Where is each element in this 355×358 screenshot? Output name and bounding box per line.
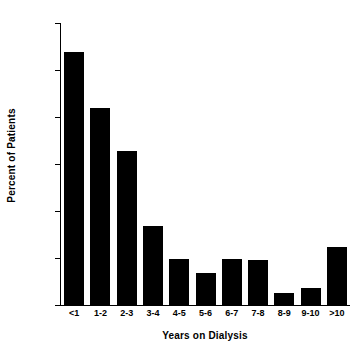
bar [143, 226, 163, 305]
plot-area: 051015202530 [60, 23, 350, 305]
bar [90, 108, 110, 305]
x-axis-tick-label: >10 [317, 309, 355, 318]
x-axis-line [60, 305, 350, 306]
bar [248, 260, 268, 305]
bar [117, 151, 137, 305]
bar [222, 259, 242, 305]
bar [274, 293, 294, 305]
bar [301, 288, 321, 305]
y-axis-tick [55, 305, 61, 306]
bar [327, 247, 347, 305]
bar [196, 273, 216, 305]
x-axis-tick-labels: <11-22-33-44-55-66-77-88-99-10>10 [60, 309, 350, 323]
y-axis-title-text: Percent of Patients [6, 108, 17, 202]
x-axis-title: Years on Dialysis [60, 330, 350, 341]
bar [169, 259, 189, 305]
y-axis-title: Percent of Patients [0, 0, 22, 310]
bar [64, 52, 84, 305]
chart-figure: Percent of Patients 051015202530 <11-22-… [0, 0, 355, 358]
bar-series [61, 23, 350, 305]
